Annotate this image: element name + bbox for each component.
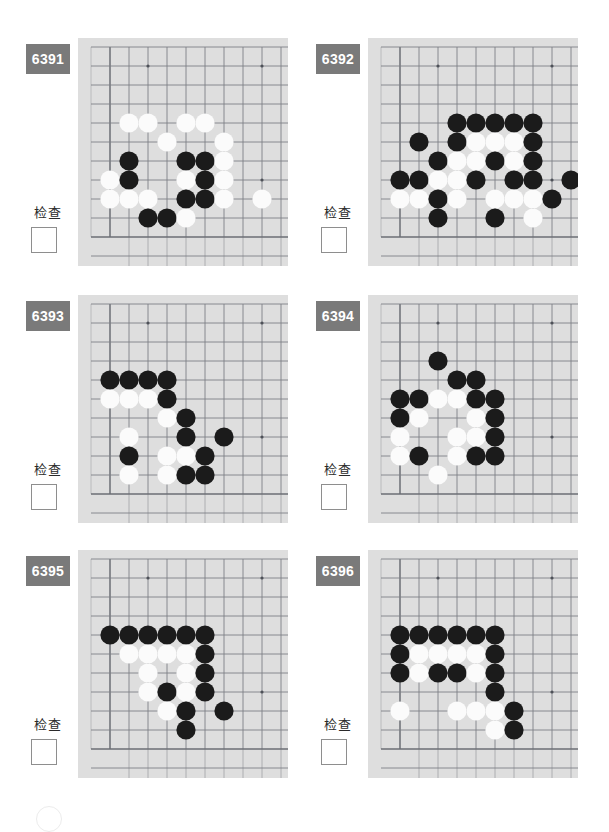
stone-black xyxy=(195,663,214,682)
stone-white xyxy=(138,189,157,208)
stone-white xyxy=(100,189,119,208)
go-board[interactable] xyxy=(368,295,578,523)
stone-black xyxy=(157,682,176,701)
check-label: 检查 xyxy=(315,718,361,731)
go-board-graphic xyxy=(368,38,578,266)
problem-number-badge: 6394 xyxy=(316,301,360,331)
stone-black xyxy=(195,465,214,484)
problem-number-badge: 6396 xyxy=(316,556,360,586)
check-checkbox[interactable] xyxy=(31,484,57,510)
stone-white xyxy=(523,189,542,208)
problem-panel-6396: 6396检查 xyxy=(310,550,578,778)
stone-white xyxy=(447,701,466,720)
stone-white xyxy=(390,427,409,446)
stone-black xyxy=(523,170,542,189)
stone-white xyxy=(390,189,409,208)
stone-white xyxy=(485,189,504,208)
stone-white xyxy=(466,663,485,682)
stone-white xyxy=(119,389,138,408)
stone-black xyxy=(466,446,485,465)
go-board[interactable] xyxy=(78,295,288,523)
check-label: 检查 xyxy=(25,463,71,476)
stone-white xyxy=(100,389,119,408)
stone-white xyxy=(157,132,176,151)
stone-black xyxy=(119,370,138,389)
stone-white xyxy=(504,151,523,170)
check-checkbox[interactable] xyxy=(31,227,57,253)
stone-white xyxy=(252,189,271,208)
check-checkbox[interactable] xyxy=(321,484,347,510)
stone-black xyxy=(195,189,214,208)
stone-black xyxy=(409,446,428,465)
stone-white xyxy=(157,701,176,720)
stone-white xyxy=(176,208,195,227)
stone-black xyxy=(504,701,523,720)
stone-white xyxy=(447,170,466,189)
stone-white xyxy=(157,446,176,465)
stone-white xyxy=(157,465,176,484)
stone-black xyxy=(447,113,466,132)
stone-black xyxy=(214,427,233,446)
check-checkbox[interactable] xyxy=(321,227,347,253)
check-checkbox[interactable] xyxy=(321,739,347,765)
go-board[interactable] xyxy=(78,550,288,778)
stone-black xyxy=(504,170,523,189)
check-checkbox[interactable] xyxy=(31,739,57,765)
stone-white xyxy=(447,189,466,208)
stone-black xyxy=(409,389,428,408)
stone-black xyxy=(214,701,233,720)
stone-black xyxy=(157,370,176,389)
stone-white xyxy=(466,151,485,170)
stone-white xyxy=(447,151,466,170)
stone-black xyxy=(447,132,466,151)
stone-white xyxy=(447,389,466,408)
stone-white xyxy=(523,208,542,227)
panel-sidebar: 6391检查 xyxy=(20,38,78,266)
panel-sidebar: 6396检查 xyxy=(310,550,368,778)
panel-sidebar: 6393检查 xyxy=(20,295,78,523)
stone-white xyxy=(409,189,428,208)
stone-white xyxy=(485,132,504,151)
stone-white xyxy=(176,644,195,663)
problem-number-badge: 6392 xyxy=(316,44,360,74)
stone-white xyxy=(119,113,138,132)
stone-white xyxy=(428,389,447,408)
stone-white xyxy=(428,465,447,484)
stone-black xyxy=(390,170,409,189)
go-board[interactable] xyxy=(368,38,578,266)
stone-black xyxy=(409,170,428,189)
stone-black xyxy=(176,151,195,170)
go-board[interactable] xyxy=(368,550,578,778)
stone-white xyxy=(447,644,466,663)
stone-black xyxy=(485,682,504,701)
stone-black xyxy=(195,446,214,465)
stone-black xyxy=(485,208,504,227)
stone-white xyxy=(504,189,523,208)
stone-black xyxy=(390,663,409,682)
stone-white xyxy=(119,427,138,446)
problem-panel-6391: 6391检查 xyxy=(20,38,288,266)
stone-white xyxy=(214,151,233,170)
stone-black xyxy=(119,170,138,189)
stone-black xyxy=(176,701,195,720)
stone-black xyxy=(485,446,504,465)
go-board-graphic xyxy=(78,295,288,523)
stone-white xyxy=(466,408,485,427)
go-board-graphic xyxy=(78,38,288,266)
stone-black xyxy=(119,446,138,465)
problem-panel-6395: 6395检查 xyxy=(20,550,288,778)
stone-black xyxy=(485,644,504,663)
stone-white xyxy=(466,701,485,720)
go-board[interactable] xyxy=(78,38,288,266)
stone-black xyxy=(119,151,138,170)
stone-black xyxy=(195,170,214,189)
stone-black xyxy=(447,370,466,389)
stone-black xyxy=(176,189,195,208)
stone-black xyxy=(466,113,485,132)
stone-white xyxy=(138,644,157,663)
stone-black xyxy=(466,625,485,644)
stone-black xyxy=(428,208,447,227)
panel-sidebar: 6394检查 xyxy=(310,295,368,523)
stone-black xyxy=(485,408,504,427)
